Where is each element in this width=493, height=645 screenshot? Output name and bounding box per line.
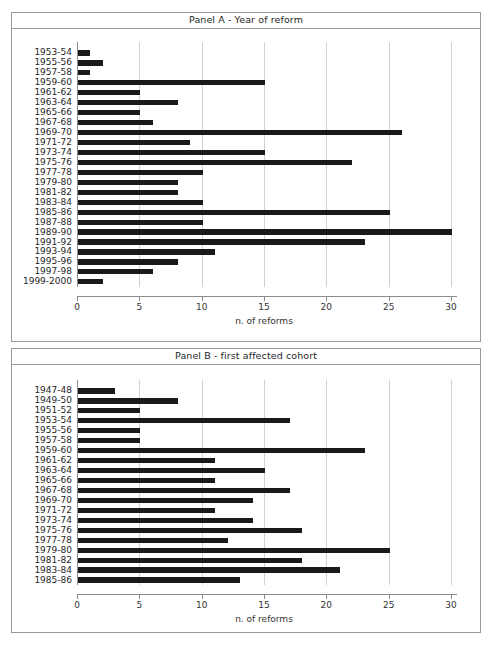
x-tick-label: 5 [124,303,154,312]
bar [78,388,115,393]
panel-a-plot-area: 1953-541955-561957-581959-601961-621963-… [12,29,480,341]
bar [78,438,140,443]
y-tick-label: 1965-66 [12,476,72,485]
y-tick-label: 1965-66 [12,108,72,117]
x-tick-label: 5 [124,601,154,610]
y-tick-label: 1949-50 [12,396,72,405]
y-tick-label: 1963-64 [12,466,72,475]
y-tick-label: 1975-76 [12,158,72,167]
figure-root: Panel A - Year of reform 1953-541955-561… [0,0,493,645]
bar [78,498,253,503]
gridline [264,380,265,585]
y-tick-label: 1953-54 [12,48,72,57]
x-tick-mark [264,595,265,599]
x-tick-label: 0 [62,303,92,312]
x-axis-line [77,594,457,595]
bar [78,508,215,513]
x-tick-mark [139,595,140,599]
y-tick-label: 1979-80 [12,178,72,187]
gridline [451,380,452,585]
x-tick-mark [326,595,327,599]
x-tick-mark [202,595,203,599]
y-tick-label: 1971-72 [12,138,72,147]
y-tick-label: 1969-70 [12,128,72,137]
panel-a-header: Panel A - Year of reform [12,13,480,29]
y-tick-label: 1977-78 [12,536,72,545]
y-tick-label: 1991-92 [12,238,72,247]
bar [78,538,228,543]
panel-b-title: Panel B - first affected cohort [12,350,480,361]
x-tick-label: 25 [374,601,404,610]
panel-b-plot-area: 1947-481949-501951-521953-541955-561957-… [12,365,480,632]
bar [78,239,365,244]
y-tick-label: 1985-86 [12,576,72,585]
bar [78,150,265,155]
bar [78,458,215,463]
bar [78,80,265,85]
y-tick-label: 1987-88 [12,218,72,227]
bar [78,567,340,572]
y-tick-label: 1977-78 [12,168,72,177]
x-tick-label: 20 [311,601,341,610]
y-tick-label: 1983-84 [12,566,72,575]
bar [78,398,178,403]
y-tick-label: 1981-82 [12,556,72,565]
panel-a: Panel A - Year of reform 1953-541955-561… [11,12,481,342]
x-tick-mark [451,595,452,599]
bar [78,180,178,185]
bar [78,279,103,284]
y-tick-label: 1975-76 [12,526,72,535]
gridline [451,42,452,287]
y-tick-label: 1947-48 [12,386,72,395]
bar [78,220,203,225]
bar [78,448,365,453]
x-tick-label: 15 [249,303,279,312]
bar [78,468,265,473]
bar [78,200,203,205]
bar [78,50,90,55]
x-tick-mark [389,595,390,599]
bar [78,120,153,125]
y-tick-label: 1985-86 [12,208,72,217]
y-tick-label: 1973-74 [12,516,72,525]
x-tick-label: 25 [374,303,404,312]
y-tick-label: 1957-58 [12,436,72,445]
x-tick-mark [389,297,390,301]
x-tick-label: 15 [249,601,279,610]
bar [78,160,352,165]
x-tick-label: 30 [436,601,466,610]
bar [78,478,215,483]
y-tick-label: 1953-54 [12,416,72,425]
bar [78,269,153,274]
y-tick-label: 1963-64 [12,98,72,107]
x-tick-mark [326,297,327,301]
y-tick-label: 1989-90 [12,228,72,237]
bar [78,488,290,493]
y-tick-label: 1999-2000 [12,277,72,286]
y-tick-label: 1995-96 [12,257,72,266]
x-tick-mark [77,595,78,599]
x-tick-mark [264,297,265,301]
x-tick-label: 20 [311,303,341,312]
y-tick-label: 1993-94 [12,247,72,256]
bar [78,90,140,95]
panel-a-title: Panel A - Year of reform [12,14,480,25]
bar [78,428,140,433]
bar [78,249,215,254]
bar [78,518,253,523]
y-tick-label: 1955-56 [12,58,72,67]
y-tick-label: 1957-58 [12,68,72,77]
y-tick-label: 1997-98 [12,267,72,276]
y-tick-label: 1973-74 [12,148,72,157]
y-tick-label: 1961-62 [12,88,72,97]
x-tick-mark [77,297,78,301]
bar [78,259,178,264]
gridline [389,380,390,585]
x-tick-label: 0 [62,601,92,610]
x-tick-label: 10 [187,601,217,610]
y-tick-label: 1969-70 [12,496,72,505]
bar [78,558,302,563]
panel-b: Panel B - first affected cohort 1947-481… [11,348,481,633]
bar [78,100,178,105]
bar [78,190,178,195]
